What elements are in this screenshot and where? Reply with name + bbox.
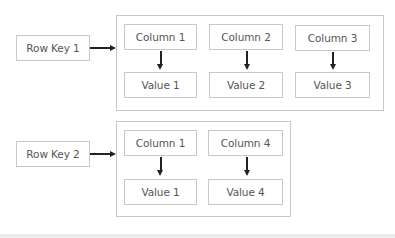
- row-1-column-1: Column 1: [124, 24, 197, 50]
- row-1-col-2-arrow-line: [246, 51, 248, 64]
- row-2-value-1: Value 1: [124, 179, 197, 205]
- row-1-col-1-arrow-head: [157, 64, 163, 70]
- row-2-value-4: Value 4: [208, 179, 283, 205]
- row-1-value-1: Value 1: [124, 72, 197, 98]
- row-1-column-2: Column 2: [209, 24, 283, 50]
- row-1-col-2-arrow-head: [244, 64, 250, 70]
- footer-divider: [0, 234, 395, 238]
- row-2-column-4: Column 4: [208, 130, 283, 156]
- row-1-value-2: Value 2: [209, 72, 283, 98]
- row-2-col-1-arrow-line: [160, 157, 162, 170]
- row-1-column-3: Column 3: [295, 25, 370, 51]
- row-2-col-4-arrow-head: [244, 170, 250, 176]
- row-1-col-1-arrow-line: [160, 51, 162, 64]
- row-key-1-arrow-line: [90, 47, 110, 49]
- row-key-2-arrow-line: [90, 153, 110, 155]
- row-1-value-3: Value 3: [295, 72, 370, 98]
- row-2-col-4-arrow-line: [246, 157, 248, 170]
- row-key-2: Row Key 2: [16, 141, 90, 167]
- row-key-1: Row Key 1: [16, 35, 90, 61]
- row-2-column-1: Column 1: [124, 130, 197, 156]
- row-2-col-1-arrow-head: [157, 170, 163, 176]
- row-1-col-3-arrow-line: [332, 52, 334, 64]
- row-1-col-3-arrow-head: [330, 64, 336, 70]
